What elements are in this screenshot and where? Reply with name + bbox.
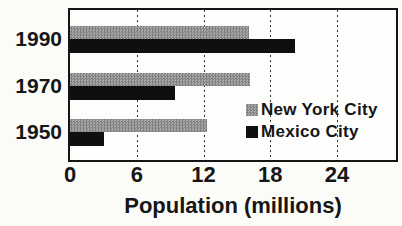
y-axis-label-1990: 1990 xyxy=(0,27,62,51)
x-axis-title: Population (millions) xyxy=(68,193,398,219)
x-tick-label-24: 24 xyxy=(325,162,349,188)
legend-item-mexico-city: Mexico City xyxy=(246,122,378,141)
x-tick-label-6: 6 xyxy=(131,162,143,188)
mexico-city-swatch-icon xyxy=(246,126,258,138)
bar-mexico-city-1950 xyxy=(70,132,104,146)
bar-new-york-city-1990 xyxy=(70,26,249,39)
bar-new-york-city-1970 xyxy=(70,73,250,86)
x-tick-label-18: 18 xyxy=(258,162,282,188)
new-york-city-swatch-icon xyxy=(246,104,258,116)
plot-area: New York City Mexico City xyxy=(68,8,398,162)
y-axis-label-1950: 1950 xyxy=(0,120,62,144)
legend-label-mexico-city: Mexico City xyxy=(261,122,359,142)
x-tick-label-12: 12 xyxy=(191,162,215,188)
bar-mexico-city-1970 xyxy=(70,86,175,100)
bar-mexico-city-1990 xyxy=(70,39,295,53)
x-tick-label-0: 0 xyxy=(64,162,76,188)
legend: New York City Mexico City xyxy=(246,100,378,141)
y-axis-label-1970: 1970 xyxy=(0,74,62,98)
bar-new-york-city-1950 xyxy=(70,119,207,132)
legend-item-new-york-city: New York City xyxy=(246,100,378,119)
x-axis: 06121824 xyxy=(0,162,402,188)
legend-label-new-york-city: New York City xyxy=(261,100,378,120)
population-bar-chart: 1990 1970 1950 New York City Mexico City… xyxy=(0,0,402,226)
